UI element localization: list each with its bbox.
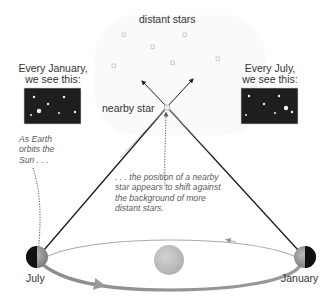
note-line: the background of more bbox=[115, 193, 221, 203]
dotted-arrow-to-earth bbox=[33, 168, 40, 254]
january-view-line2: we see this: bbox=[14, 74, 92, 85]
earth-july bbox=[26, 246, 48, 268]
sun bbox=[154, 245, 184, 275]
july-view-line2: we see this: bbox=[231, 74, 309, 85]
nearby-star-label: nearby star bbox=[102, 103, 155, 114]
earth-orbits-note: As Earth orbits the Sun . . . bbox=[19, 134, 54, 165]
orbit-back-arrow bbox=[228, 240, 236, 242]
january-sky-panel bbox=[24, 88, 81, 124]
january-view-caption: Every January, we see this: bbox=[14, 63, 92, 85]
july-label: July bbox=[26, 273, 45, 284]
nearby-star-icon bbox=[165, 105, 170, 110]
earth-january bbox=[294, 246, 316, 268]
note-line: star appears to shift against bbox=[115, 182, 221, 192]
july-view-caption: Every July, we see this: bbox=[231, 63, 309, 85]
note-line: Sun . . . bbox=[19, 155, 54, 165]
july-sky-panel bbox=[241, 88, 298, 124]
position-shift-note: . . . the position of a nearby star appe… bbox=[115, 172, 221, 213]
january-label: January bbox=[281, 273, 318, 284]
note-line: distant stars. bbox=[115, 203, 221, 213]
distant-stars-label: distant stars bbox=[139, 14, 196, 25]
note-line: As Earth bbox=[19, 134, 54, 144]
note-line: orbits the bbox=[19, 144, 54, 154]
note-line: . . . the position of a nearby bbox=[115, 172, 221, 182]
